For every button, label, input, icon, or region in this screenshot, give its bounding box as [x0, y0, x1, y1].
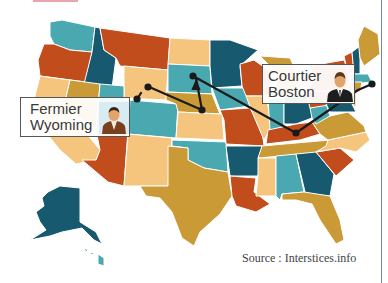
state-wyoming — [124, 66, 168, 100]
farmer-avatar-icon — [99, 102, 129, 134]
state-colorado — [128, 100, 178, 138]
state-mississippi — [256, 158, 276, 196]
source-caption: Source : Interstices.info — [242, 251, 356, 266]
farmer-role: Fermier — [30, 101, 92, 117]
state-alaska — [30, 186, 102, 244]
farmer-location: Wyoming — [30, 117, 92, 133]
us-map — [0, 0, 388, 283]
courier-role: Courtier — [268, 68, 321, 84]
courier-location: Boston — [268, 84, 321, 100]
state-south-dakota — [168, 64, 212, 94]
courier-label-text: Courtier Boston — [268, 68, 321, 100]
state-kansas — [176, 112, 224, 140]
state-new-mexico — [124, 134, 172, 186]
farmer-label: Fermier Wyoming — [20, 97, 130, 137]
state-hawaii — [84, 248, 104, 266]
state-north-dakota — [168, 38, 210, 66]
state-maine — [358, 26, 380, 66]
courier-label: Courtier Boston — [262, 64, 355, 104]
state-arkansas — [226, 146, 262, 176]
farmer-label-text: Fermier Wyoming — [30, 101, 92, 133]
businessman-avatar-icon — [326, 68, 354, 102]
state-florida — [282, 192, 344, 244]
